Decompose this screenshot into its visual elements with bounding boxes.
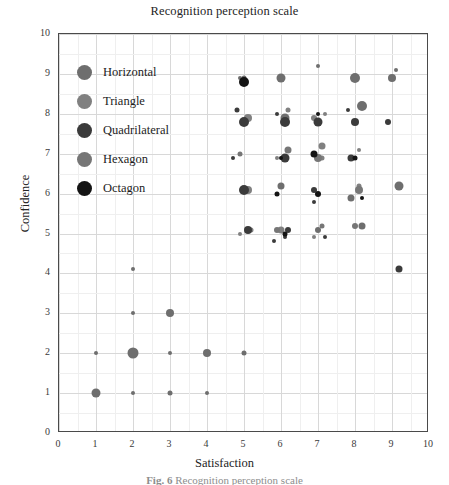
data-point — [275, 191, 280, 196]
x-axis-label: Satisfaction — [0, 456, 449, 471]
x-tick-label: 0 — [45, 438, 71, 449]
data-point — [395, 181, 404, 190]
data-point — [319, 223, 324, 228]
legend-item-octagon[interactable]: Octagon — [77, 174, 242, 203]
data-point — [131, 391, 135, 395]
x-tick-label: 7 — [304, 438, 330, 449]
legend-marker-icon — [77, 152, 92, 167]
x-tick-label: 8 — [341, 438, 367, 449]
chart-legend: HorizontalTriangleQuadrilateralHexagonOc… — [77, 58, 242, 203]
legend-item-label: Horizontal — [103, 65, 156, 80]
gridline-horizontal — [59, 273, 427, 274]
data-point — [131, 311, 135, 315]
data-point — [94, 351, 98, 355]
data-point — [205, 391, 209, 395]
x-tick-label: 10 — [415, 438, 441, 449]
data-point — [385, 119, 391, 125]
x-tick-label: 3 — [156, 438, 182, 449]
data-point — [272, 239, 276, 243]
data-point — [352, 223, 358, 229]
data-point — [394, 68, 398, 72]
y-tick-label: 1 — [24, 386, 50, 397]
legend-item-label: Triangle — [103, 94, 145, 109]
gridline-horizontal-minor — [59, 253, 427, 254]
legend-item-label: Quadrilateral — [103, 123, 169, 138]
legend-marker-icon — [77, 181, 92, 196]
y-tick-label: 3 — [24, 306, 50, 317]
data-point — [131, 267, 135, 271]
data-point — [312, 235, 316, 239]
legend-item-triangle[interactable]: Triangle — [77, 87, 242, 116]
caption-text: Recognition perception scale — [172, 474, 302, 485]
gridline-vertical-minor — [411, 34, 412, 431]
data-point — [351, 118, 359, 126]
gridline-horizontal-minor — [59, 214, 427, 215]
data-point — [357, 148, 361, 152]
data-point — [275, 112, 279, 116]
y-tick-label: 10 — [24, 27, 50, 38]
legend-marker-icon — [77, 65, 92, 80]
legend-item-label: Hexagon — [103, 152, 148, 167]
legend-item-horizontal[interactable]: Horizontal — [77, 58, 242, 87]
data-point — [203, 349, 211, 357]
data-point — [244, 226, 252, 234]
data-point — [166, 309, 174, 317]
legend-marker-icon — [77, 123, 92, 138]
data-point — [238, 232, 242, 236]
gridline-vertical — [392, 34, 393, 431]
gridline-horizontal-minor — [59, 333, 427, 334]
data-point — [355, 186, 363, 194]
data-point — [280, 117, 290, 127]
data-point — [92, 389, 101, 398]
data-point — [318, 142, 325, 149]
legend-item-hexagon[interactable]: Hexagon — [77, 145, 242, 174]
figure-container: Recognition perception scale HorizontalT… — [0, 0, 449, 485]
x-tick-label: 4 — [193, 438, 219, 449]
legend-item-quadrilateral[interactable]: Quadrilateral — [77, 116, 242, 145]
legend-item-label: Octagon — [103, 181, 145, 196]
chart-title: Recognition perception scale — [0, 4, 449, 19]
data-point — [360, 196, 364, 200]
data-point — [315, 191, 321, 197]
x-tick-label: 2 — [119, 438, 145, 449]
x-tick-label: 9 — [378, 438, 404, 449]
data-point — [357, 101, 367, 111]
gridline-horizontal-minor — [59, 373, 427, 374]
data-point — [242, 351, 247, 356]
figure-caption: Fig. 6 Recognition perception scale — [0, 474, 449, 485]
y-tick-label: 9 — [24, 67, 50, 78]
gridline-horizontal — [59, 234, 427, 235]
x-tick-label: 5 — [230, 438, 256, 449]
data-point — [274, 227, 280, 233]
caption-prefix: Fig. 6 — [146, 474, 172, 485]
y-tick-label: 0 — [24, 426, 50, 437]
data-point — [316, 64, 320, 68]
data-point — [282, 231, 287, 236]
gridline-horizontal-minor — [59, 54, 427, 55]
data-point — [277, 73, 286, 82]
data-point — [168, 351, 172, 355]
data-point — [396, 266, 403, 273]
data-point — [388, 74, 396, 82]
data-point — [350, 73, 360, 83]
data-point — [353, 155, 358, 160]
data-point — [168, 391, 173, 396]
data-point — [285, 146, 292, 153]
legend-marker-icon — [77, 94, 92, 109]
data-point — [286, 107, 291, 112]
data-point — [348, 194, 355, 201]
gridline-horizontal — [59, 313, 427, 314]
gridline-horizontal — [59, 34, 427, 35]
data-point — [311, 150, 318, 157]
data-point — [283, 235, 287, 239]
gridline-horizontal-minor — [59, 293, 427, 294]
y-axis-label: Confidence — [18, 114, 33, 294]
data-point — [128, 348, 139, 359]
y-tick-label: 2 — [24, 346, 50, 357]
data-point — [312, 200, 316, 204]
x-tick-label: 6 — [267, 438, 293, 449]
plot-area: HorizontalTriangleQuadrilateralHexagonOc… — [58, 33, 428, 432]
data-point — [314, 117, 323, 126]
data-point — [323, 235, 327, 239]
data-point — [346, 108, 350, 112]
